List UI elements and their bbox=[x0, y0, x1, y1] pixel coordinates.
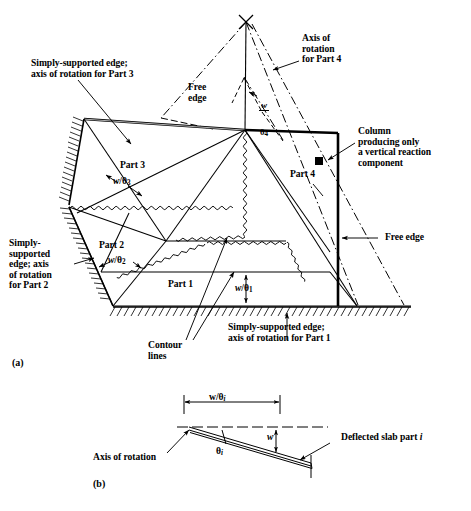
panel-tag-a: (a) bbox=[12, 357, 24, 368]
yield-lower-left bbox=[113, 241, 166, 306]
label-part-2: Part 2 bbox=[99, 240, 124, 251]
callout-column-note: Column producing only a vertical reactio… bbox=[358, 126, 431, 168]
wavy-horizontal-left bbox=[70, 206, 233, 209]
label-part-4: Part 4 bbox=[290, 169, 315, 180]
leader-deflected-slab bbox=[300, 443, 330, 460]
callout-contour-lines: Contour lines bbox=[148, 340, 182, 361]
p3-p2-boundary-top bbox=[69, 207, 166, 241]
label-part-1: Part 1 bbox=[168, 279, 193, 290]
dim-label-w-theta-3: w/θ3 bbox=[113, 176, 130, 189]
yield-lower-right bbox=[330, 272, 357, 306]
wavy-contour-lines bbox=[70, 131, 305, 282]
deflected-slab-text: Deflected slab part bbox=[341, 431, 420, 442]
hatch-edge-part3 bbox=[59, 117, 84, 205]
ridge-to-right-bottom bbox=[245, 130, 357, 306]
label-part-3: Part 3 bbox=[120, 160, 145, 171]
leader-axis-of-rotation bbox=[167, 430, 189, 453]
label-deflected-slab-part: Deflected slab part i bbox=[341, 432, 422, 443]
slab-top-edges bbox=[84, 119, 338, 133]
label-deflection-w: w bbox=[267, 432, 273, 443]
deflected-slab-index: i bbox=[420, 431, 423, 442]
label-axis-of-rotation: Axis of rotation bbox=[93, 452, 156, 463]
callout-simply-supported-part2: Simply- supported edge; axis of rotation… bbox=[9, 238, 52, 291]
panel-tag-b: (b) bbox=[93, 478, 105, 489]
wavy-center-right-down bbox=[246, 238, 259, 273]
column-marker-square bbox=[315, 157, 323, 165]
base-left-line bbox=[69, 207, 113, 306]
callout-free-edge-right: Free edge bbox=[385, 232, 424, 243]
callout-axis-rotation-part4: Axis of rotation for Part 4 bbox=[302, 33, 341, 65]
dim-label-w-theta-4: w θ4 bbox=[259, 84, 269, 156]
ridge-to-left bbox=[77, 130, 245, 213]
leader-column bbox=[328, 143, 355, 160]
ridge-inner-right bbox=[245, 130, 330, 252]
panel-b-geometry bbox=[167, 395, 330, 478]
label-theta-i: θi bbox=[216, 446, 223, 459]
leader-w-theta-2b bbox=[133, 262, 141, 268]
callout-simply-supported-part1: Simply-supported edge; axis of rotation … bbox=[228, 322, 330, 343]
lower-yield-lines bbox=[101, 241, 357, 306]
hatch-edge-part2 bbox=[60, 207, 113, 306]
callout-simply-supported-part3: Simply-supported edge; axis of rotation … bbox=[31, 58, 133, 79]
dim-label-w-theta-i: w/θi bbox=[209, 392, 225, 405]
w-theta-4-numerator: w bbox=[259, 101, 269, 111]
dim-label-w-theta-1: w/θ1 bbox=[235, 283, 252, 296]
wavy-vertical-center bbox=[243, 131, 246, 237]
wavy-diag-lower-left bbox=[117, 244, 205, 278]
leader-free-edge-upper bbox=[218, 103, 228, 108]
w-theta-4-denominator: θ4 bbox=[259, 128, 269, 138]
apex-vertical-line bbox=[245, 22, 246, 130]
leader-ss-part2 bbox=[74, 258, 94, 264]
leader-ss-part3 bbox=[78, 80, 131, 144]
dim-extension-lines bbox=[184, 395, 280, 414]
deflected-slab-section bbox=[189, 427, 312, 469]
hatch-edge-part1 bbox=[110, 307, 411, 316]
wavy-diag-lower-right bbox=[287, 242, 305, 282]
figure-canvas: Simply-supported edge; axis of rotation … bbox=[0, 0, 471, 511]
wavy-mid-horizontal bbox=[207, 242, 286, 245]
dim-label-w-theta-2: w/θ2 bbox=[108, 255, 125, 268]
callout-free-edge-upper: Free edge bbox=[188, 82, 206, 103]
dashdot-apex-left bbox=[161, 22, 246, 118]
ridge-inner-left bbox=[166, 130, 245, 241]
leader-axis-part4 bbox=[273, 61, 299, 70]
